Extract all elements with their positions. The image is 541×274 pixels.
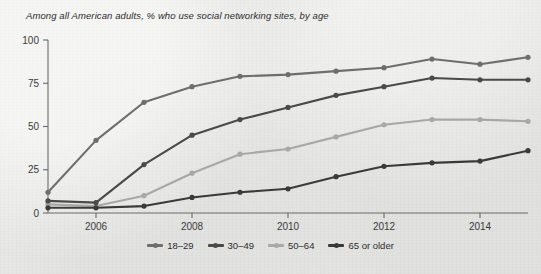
data-point-marker — [45, 198, 50, 203]
data-point-marker — [477, 117, 482, 122]
legend-label: 65 or older — [348, 240, 393, 251]
y-axis-tick-label: 25 — [28, 164, 40, 175]
y-axis-tick-label: 50 — [28, 121, 40, 132]
data-point-marker — [93, 205, 98, 210]
data-point-marker — [477, 159, 482, 164]
data-point-marker — [525, 119, 530, 124]
x-axis-tick-label: 2008 — [181, 221, 204, 232]
data-point-marker — [237, 152, 242, 157]
data-point-marker — [237, 74, 242, 79]
data-point-marker — [45, 190, 50, 195]
data-point-marker — [189, 84, 194, 89]
data-point-marker — [333, 69, 338, 74]
data-point-marker — [381, 65, 386, 70]
data-point-marker — [333, 93, 338, 98]
legend-label: 50–64 — [288, 240, 314, 251]
data-point-marker — [429, 75, 434, 80]
data-point-marker — [45, 205, 50, 210]
data-point-marker — [429, 117, 434, 122]
legend-label: 30–49 — [228, 240, 254, 251]
y-axis-tick-label: 100 — [22, 35, 39, 46]
data-point-marker — [189, 171, 194, 176]
data-point-marker — [429, 56, 434, 61]
series-18-29 — [45, 55, 530, 195]
y-axis-tick-label: 0 — [33, 208, 39, 219]
data-point-marker — [189, 133, 194, 138]
data-point-marker — [333, 174, 338, 179]
series-line — [48, 151, 528, 208]
data-point-marker — [477, 62, 482, 67]
data-point-marker — [189, 195, 194, 200]
data-point-marker — [525, 77, 530, 82]
series-30-49 — [45, 75, 530, 205]
data-point-marker — [141, 193, 146, 198]
data-point-marker — [285, 146, 290, 151]
data-point-marker — [237, 190, 242, 195]
legend-swatch-icon — [208, 244, 224, 247]
data-point-marker — [141, 162, 146, 167]
data-point-marker — [381, 164, 386, 169]
y-axis-tick-label: 75 — [28, 78, 40, 89]
data-point-marker — [477, 77, 482, 82]
data-point-marker — [381, 84, 386, 89]
legend-item[interactable]: 50–64 — [268, 240, 314, 251]
data-point-marker — [237, 117, 242, 122]
legend-swatch-icon — [268, 244, 284, 247]
social-networking-line-chart: Among all American adults, % who use soc… — [0, 0, 541, 274]
legend-label: 18–29 — [167, 240, 193, 251]
data-point-marker — [93, 200, 98, 205]
legend-item[interactable]: 18–29 — [147, 240, 193, 251]
data-point-marker — [285, 72, 290, 77]
chart-plot-area: 025507510020062008201020122014 — [0, 0, 541, 274]
data-point-marker — [93, 138, 98, 143]
data-point-marker — [141, 100, 146, 105]
legend-swatch-icon — [147, 244, 163, 247]
chart-legend: 18–2930–4950–6465 or older — [0, 240, 541, 251]
data-point-marker — [525, 148, 530, 153]
legend-swatch-icon — [328, 244, 344, 247]
series-line — [48, 57, 528, 192]
data-point-marker — [429, 160, 434, 165]
x-axis-tick-label: 2014 — [469, 221, 492, 232]
x-axis-tick-label: 2012 — [373, 221, 396, 232]
data-point-marker — [525, 55, 530, 60]
x-axis-tick-label: 2006 — [85, 221, 108, 232]
data-point-marker — [333, 134, 338, 139]
data-point-marker — [285, 186, 290, 191]
data-point-marker — [285, 105, 290, 110]
x-axis-tick-label: 2010 — [277, 221, 300, 232]
data-point-marker — [381, 122, 386, 127]
legend-item[interactable]: 65 or older — [328, 240, 393, 251]
series-line — [48, 78, 528, 203]
data-point-marker — [141, 203, 146, 208]
legend-item[interactable]: 30–49 — [208, 240, 254, 251]
